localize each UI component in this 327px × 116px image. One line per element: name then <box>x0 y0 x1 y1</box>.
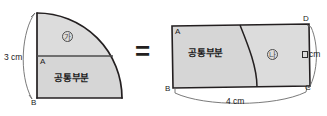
right-shared-region-label: 공통부분 <box>188 48 223 58</box>
right-point-a-label: A <box>175 28 180 36</box>
equals-sign: = <box>135 38 150 64</box>
left-shared-region-label: 공통부분 <box>54 73 89 83</box>
right-height-unit: cm <box>309 49 320 59</box>
right-point-c-label: C <box>305 84 311 92</box>
left-dimension-arc <box>23 13 35 99</box>
unknown-value-box <box>302 51 308 58</box>
left-point-b-label: B <box>31 99 36 107</box>
left-region-ga-fill <box>37 13 112 56</box>
left-point-a-label: A <box>40 58 45 66</box>
circled-ga-glyph: 가 <box>62 31 73 42</box>
circled-na-glyph: 나 <box>267 49 278 60</box>
right-point-d-label: D <box>303 15 309 23</box>
geometry-figure: 3 cm A B 가 공통부분 = A D B C 공통부분 나 cm 4 cm <box>0 0 327 116</box>
right-width-dimension-label: 4 cm <box>226 97 244 106</box>
left-radius-dimension-label: 3 cm <box>4 53 22 62</box>
right-height-dimension-label: cm <box>302 50 320 59</box>
right-rectangle-group <box>172 24 316 103</box>
right-point-b-label: B <box>165 85 170 93</box>
left-region-ga-label: 가 <box>62 31 73 42</box>
left-quarter-circle-group <box>23 13 122 99</box>
right-region-na-label: 나 <box>267 49 278 60</box>
